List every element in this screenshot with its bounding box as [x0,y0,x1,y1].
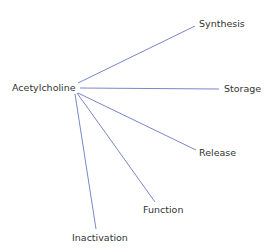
connector-line-function [77,93,155,202]
connector-line-inactivation [75,94,96,229]
branch-node-inactivation: Inactivation [72,233,128,243]
branch-node-release: Release [199,148,236,158]
connector-line-release [78,93,196,150]
connector-line-storage [80,88,219,89]
branch-node-synthesis: Synthesis [199,19,245,29]
connector-lines [0,0,270,252]
connector-line-synthesis [78,26,195,83]
center-node-acetylcholine: Acetylcholine [12,83,76,93]
concept-map: Acetylcholine Synthesis Storage Release … [0,0,270,252]
branch-node-storage: Storage [224,84,261,94]
branch-node-function: Function [143,205,183,215]
